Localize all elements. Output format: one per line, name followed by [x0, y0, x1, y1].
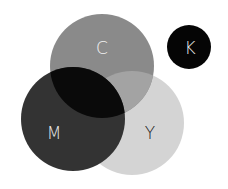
label-k: K — [184, 40, 195, 57]
label-m: M — [47, 125, 62, 142]
label-y: Y — [145, 125, 155, 142]
cmyk-venn-diagram — [0, 0, 228, 189]
label-c: C — [96, 40, 108, 57]
